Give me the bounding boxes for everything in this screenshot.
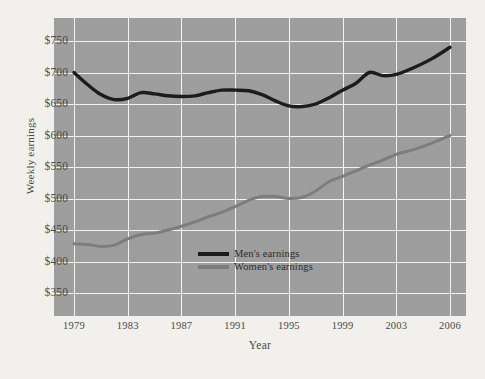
x-tick-label-1983: 1983 — [104, 320, 152, 331]
legend-swatch-men — [198, 252, 229, 256]
x-tick-label-1987: 1987 — [157, 320, 205, 331]
x-tick-label-2003: 2003 — [372, 320, 420, 331]
x-tick-label-1991: 1991 — [211, 320, 259, 331]
y-tick-label-450: $450 — [22, 224, 68, 235]
x-tick-label-1995: 1995 — [265, 320, 313, 331]
chart-figure: Men's earningsWomen's earnings $750$700$… — [0, 0, 485, 379]
y-tick-label-350: $350 — [22, 287, 68, 298]
y-tick-label-400: $400 — [22, 256, 68, 267]
legend-item-men: Men's earnings — [198, 247, 313, 260]
x-tick-label-1999: 1999 — [319, 320, 367, 331]
legend-item-women: Women's earnings — [198, 260, 313, 273]
legend-swatch-women — [198, 265, 229, 269]
legend-label: Women's earnings — [234, 261, 313, 272]
y-axis-title: Weekly earnings — [24, 96, 36, 216]
y-tick-label-750: $750 — [22, 35, 68, 46]
plot-area: Men's earningsWomen's earnings — [54, 18, 466, 316]
x-tick-label-2006: 2006 — [426, 320, 474, 331]
x-tick-label-1979: 1979 — [50, 320, 98, 331]
legend-label: Men's earnings — [234, 248, 300, 259]
y-tick-label-700: $700 — [22, 67, 68, 78]
x-axis-title: Year — [54, 339, 466, 351]
series-line-women — [74, 136, 450, 247]
chart-legend: Men's earningsWomen's earnings — [198, 247, 313, 273]
series-line-men — [74, 47, 450, 106]
